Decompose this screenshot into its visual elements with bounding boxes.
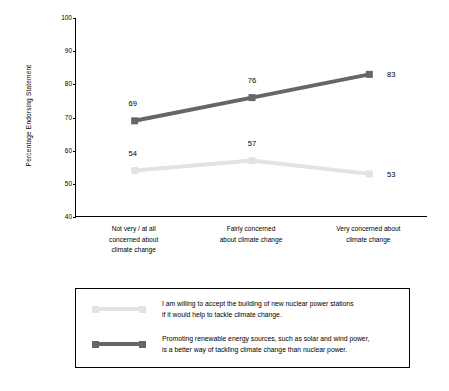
x-axis-label: Not very / at allconcerned aboutclimate …	[82, 224, 186, 256]
x-axis-label-line: Fairly concerned	[199, 224, 303, 235]
y-axis-title: Percentage Endorsing Statement	[25, 26, 32, 206]
legend-label-nuclear-line1: I am willing to accept the building of n…	[162, 300, 354, 307]
legend-item-renewables: Promoting renewable energy sources, such…	[76, 333, 409, 363]
x-axis-labels: Not very / at allconcerned aboutclimate …	[75, 224, 427, 272]
y-tick-label: 80	[65, 81, 72, 88]
y-tick-label: 70	[65, 114, 72, 121]
series-marker-nuclear	[366, 170, 373, 177]
series-marker-renewables	[249, 94, 256, 101]
y-tick-label: 90	[65, 48, 72, 55]
series-marker-renewables	[366, 71, 373, 78]
x-axis-label-line: concerned about	[82, 235, 186, 246]
series-marker-renewables	[131, 117, 138, 124]
series-lines	[76, 18, 428, 217]
point-label: 83	[387, 72, 395, 80]
series-marker-nuclear	[249, 157, 256, 164]
x-axis-label-line: about climate change	[199, 235, 303, 246]
plot-area: 100908070605040 545753697683	[75, 18, 427, 217]
legend-label-renewables-line2: is a better way of tackling climate chan…	[162, 344, 402, 355]
point-label: 69	[128, 100, 136, 108]
legend-label-nuclear-line2: if it would help to tackle climate chang…	[162, 309, 402, 320]
x-axis-label-line: climate change	[316, 235, 420, 246]
y-tick-mark	[73, 217, 76, 218]
legend-label-renewables-line1: Promoting renewable energy sources, such…	[162, 335, 369, 342]
legend-item-nuclear: I am willing to accept the building of n…	[76, 298, 409, 328]
x-axis-label-line: Not very / at all	[82, 224, 186, 235]
y-tick-label: 40	[65, 214, 72, 221]
chart-container: Percentage Endorsing Statement 100908070…	[0, 0, 449, 391]
y-tick-label: 50	[65, 181, 72, 188]
y-tick-label: 100	[61, 15, 72, 22]
legend-label-nuclear: I am willing to accept the building of n…	[162, 298, 402, 320]
legend-swatch-renewables	[92, 342, 146, 346]
x-axis-label: Very concerned aboutclimate change	[316, 224, 420, 245]
x-axis-label-line: climate change	[82, 245, 186, 256]
legend-label-renewables: Promoting renewable energy sources, such…	[162, 333, 402, 355]
x-axis-label-line: Very concerned about	[316, 224, 420, 235]
point-label: 53	[387, 171, 395, 179]
x-axis-label: Fairly concernedabout climate change	[199, 224, 303, 245]
point-label: 76	[248, 77, 256, 85]
y-tick-label: 60	[65, 147, 72, 154]
series-marker-nuclear	[131, 167, 138, 174]
point-label: 57	[248, 140, 256, 148]
legend-swatch-nuclear	[92, 307, 146, 311]
legend: I am willing to accept the building of n…	[75, 288, 410, 368]
point-label: 54	[128, 150, 136, 158]
